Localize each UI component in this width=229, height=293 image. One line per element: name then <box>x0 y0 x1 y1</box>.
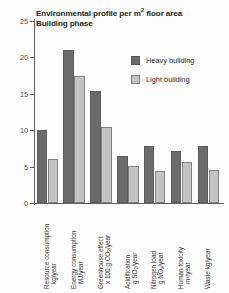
environmental-profile-chart: Environmental profile per m2 floor area … <box>0 0 229 293</box>
bar-group <box>34 21 61 203</box>
bar-light[interactable] <box>128 166 139 203</box>
y-tick-label: 10 <box>20 126 28 135</box>
y-tick-label: 25 <box>20 17 28 26</box>
category-label-line2: x 100 g CO2/year <box>104 205 111 289</box>
y-tick-label: 5 <box>24 162 28 171</box>
x-axis-line <box>30 203 224 204</box>
category-label-line2: g SO2/year <box>131 205 138 289</box>
category-label-line1: Resource consumption <box>43 205 50 289</box>
bar-light[interactable] <box>182 162 193 203</box>
category-label-line2: kg/year <box>50 205 57 289</box>
category-label-line1: Energy consumption <box>70 205 77 289</box>
bar-group <box>168 21 195 203</box>
bar-group <box>88 21 115 203</box>
bar-heavy[interactable] <box>198 146 209 204</box>
legend-swatch-light <box>131 75 140 84</box>
plot-area: 0510152025 <box>34 21 222 203</box>
legend-item[interactable]: Heavy building <box>131 56 194 65</box>
bar-group <box>141 21 168 203</box>
bar-heavy[interactable] <box>37 130 48 203</box>
bar-heavy[interactable] <box>117 156 128 203</box>
legend-label: Light building <box>146 75 190 84</box>
y-tick-label: 0 <box>24 199 28 208</box>
chart-legend: Heavy buildingLight building <box>131 56 194 94</box>
legend-item[interactable]: Light building <box>131 75 194 84</box>
bar-heavy[interactable] <box>63 50 74 203</box>
category-label-line2: m³/year <box>184 205 191 289</box>
bar-heavy[interactable] <box>90 91 101 203</box>
bar-heavy[interactable] <box>171 151 182 203</box>
category-label-line2: MJ/year <box>77 205 84 289</box>
bar-heavy[interactable] <box>144 146 155 204</box>
bar-light[interactable] <box>74 76 85 203</box>
legend-label: Heavy building <box>146 56 194 65</box>
y-tick-mark <box>30 203 34 204</box>
category-label-line2: g NOx/year <box>158 205 165 289</box>
chart-title: Environmental profile per m2 floor area <box>36 9 224 19</box>
category-label-line1: Greenhouse effect <box>97 205 104 289</box>
bar-group <box>195 21 222 203</box>
bar-light[interactable] <box>155 171 166 203</box>
bar-group <box>61 21 88 203</box>
x-axis-category-labels: Resource consumptionkg/yearEnergy consum… <box>34 205 222 291</box>
category-label-line1: Acidification <box>124 205 131 289</box>
legend-swatch-heavy <box>131 56 140 65</box>
bar-light[interactable] <box>101 127 112 203</box>
bar-light[interactable] <box>48 159 59 203</box>
bar-group <box>115 21 142 203</box>
y-tick-label: 20 <box>20 53 28 62</box>
y-tick-label: 15 <box>20 89 28 98</box>
category-label-line1: Waste kg/year <box>204 205 211 289</box>
bar-light[interactable] <box>209 170 220 203</box>
